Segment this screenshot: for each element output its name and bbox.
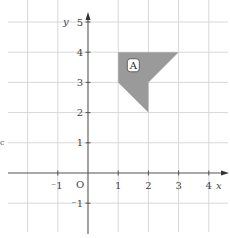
y-axis-label: y — [62, 16, 69, 27]
cropped-text-fragment: c — [0, 138, 4, 147]
x-tick-label: 2 — [145, 180, 151, 191]
grid-plot: A ⁻1123454321⁻1xyO — [0, 0, 230, 238]
x-axis-label: x — [216, 180, 222, 191]
y-tick-label: 1 — [77, 137, 83, 148]
y-tick-label: 2 — [77, 107, 83, 118]
x-tick-label: 1 — [115, 180, 121, 191]
y-tick-label: 5 — [77, 17, 83, 28]
x-axis-arrow-icon — [221, 171, 229, 176]
x-tick-label: 3 — [175, 180, 181, 191]
y-tick-label: ⁻1 — [71, 198, 83, 209]
x-tick-label: ⁻1 — [51, 180, 63, 191]
x-tick-label: 4 — [206, 180, 212, 191]
shape-label: A — [129, 60, 138, 71]
y-tick-label: 3 — [77, 77, 83, 88]
grid-lines — [8, 0, 228, 232]
coordinate-grid-figure: A ⁻1123454321⁻1xyO c — [0, 0, 230, 238]
y-axis-arrow-icon — [86, 12, 91, 20]
y-tick-label: 4 — [77, 47, 83, 58]
origin-label: O — [76, 179, 84, 190]
